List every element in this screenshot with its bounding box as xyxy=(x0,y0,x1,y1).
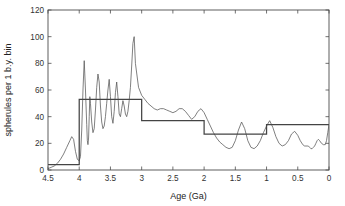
x-tick-label: 3.5 xyxy=(105,174,117,183)
y-tick-label: 100 xyxy=(30,33,44,42)
x-tick-label: 2 xyxy=(202,174,207,183)
y-tick-label: 120 xyxy=(30,6,44,15)
x-tick-label: 1 xyxy=(264,174,269,183)
spherule-flux-chart: 4.543.532.521.510.50 020406080100120 Age… xyxy=(0,0,345,206)
x-tick-label: 4.5 xyxy=(42,174,54,183)
y-tick-label: 40 xyxy=(35,113,45,122)
y-axis-title: spherules per 1 b.y. bin xyxy=(3,44,13,137)
x-tick-label: 2.5 xyxy=(167,174,179,183)
y-tick-label: 80 xyxy=(35,59,45,68)
y-tick-label: 20 xyxy=(35,139,45,148)
x-tick-label: 4 xyxy=(77,174,82,183)
y-tick-label: 60 xyxy=(35,86,45,95)
x-tick-label: 3 xyxy=(139,174,144,183)
chart-figure: 4.543.532.521.510.50 020406080100120 Age… xyxy=(0,0,345,206)
y-tick-label: 0 xyxy=(39,166,44,175)
x-tick-label: 1.5 xyxy=(230,174,242,183)
x-axis-title: Age (Ga) xyxy=(170,191,207,201)
plot-area-background xyxy=(48,10,329,170)
x-tick-label: 0 xyxy=(327,174,332,183)
x-tick-label: 0.5 xyxy=(292,174,304,183)
